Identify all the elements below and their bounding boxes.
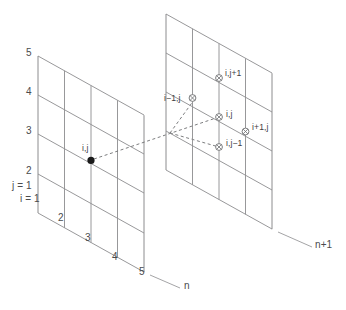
dash-link-to-i-j-minus-1 bbox=[170, 133, 219, 147]
dash-link-ij-to-ij bbox=[94, 117, 219, 159]
right-node-i-j bbox=[216, 114, 223, 121]
right-grid bbox=[166, 14, 312, 247]
left-axis-tick-j4: 4 bbox=[26, 87, 32, 97]
dash-link-to-i-minus-1-j bbox=[170, 100, 194, 133]
right-node-i-j-plus-1 bbox=[216, 75, 223, 82]
right-plane-axis-n1 bbox=[278, 232, 312, 247]
left-grid bbox=[38, 56, 180, 288]
left-axis-origin-j: j = 1 bbox=[12, 181, 32, 191]
left-node-label-ij: i,j bbox=[82, 144, 89, 153]
right-node-label-i-j-minus-1: i,j−1 bbox=[226, 139, 243, 148]
right-node-i-minus-1-j bbox=[189, 95, 196, 102]
right-plane-label-n-plus-1: n+1 bbox=[315, 240, 332, 250]
left-axis-tick-j5: 5 bbox=[26, 48, 32, 58]
right-node-label-i-plus-1-j: i+1,j bbox=[252, 123, 269, 132]
right-node-label-i-j-plus-1: i,j+1 bbox=[225, 69, 242, 78]
left-axis-tick-i5: 5 bbox=[139, 267, 145, 277]
left-axis-origin-i: i = 1 bbox=[20, 194, 40, 204]
diagram-canvas bbox=[0, 0, 346, 310]
right-node-label-i-j: i,j bbox=[226, 110, 233, 119]
figure-root: 5 4 3 2 j = 1 i = 1 2 3 4 5 n n+1 i,j i,… bbox=[0, 0, 346, 310]
left-axis-tick-i2: 2 bbox=[58, 213, 64, 223]
right-node-i-j-minus-1 bbox=[216, 144, 223, 151]
left-plane-node-ij bbox=[87, 157, 94, 164]
left-plane-label-n: n bbox=[184, 281, 190, 291]
left-plane-axis-n bbox=[150, 275, 180, 288]
left-axis-tick-i3: 3 bbox=[85, 233, 91, 243]
left-axis-tick-j2: 2 bbox=[26, 166, 32, 176]
left-axis-tick-j3: 3 bbox=[26, 126, 32, 136]
right-node-label-i-minus-1-j: i−1,j bbox=[164, 94, 181, 103]
right-node-i-plus-1-j bbox=[242, 128, 249, 135]
left-axis-tick-i4: 4 bbox=[112, 252, 118, 262]
